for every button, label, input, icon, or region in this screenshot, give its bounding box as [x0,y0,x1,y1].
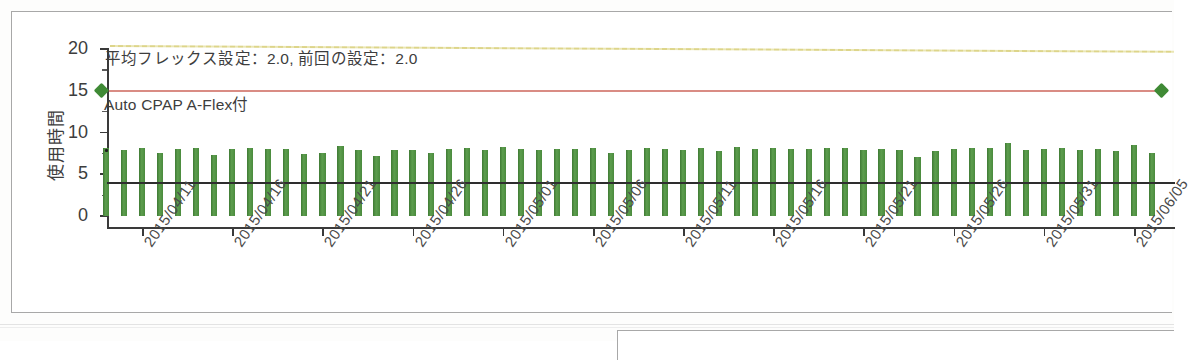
usage-bar [1131,145,1137,216]
y-tick-label: 20 [48,39,88,57]
y-tick-label: 15 [48,81,88,99]
device-mode-annotation: Auto CPAP A-Flex付 [104,92,249,114]
flex-setting-annotation: 平均フレックス設定：2.0, 前回の設定：2.0 [105,46,418,68]
usage-chart-panel: 使用時間 05101520 平均フレックス設定：2.0, 前回の設定：2.0 A… [11,11,1172,313]
usage-bar [1005,143,1011,216]
usage-bar [301,154,307,216]
usage-bar [319,153,325,216]
secondary-panel [617,330,1174,360]
usage-bar [428,153,434,216]
y-tick-label: 10 [48,123,88,141]
y-tick-label: 0 [48,206,88,224]
cpap-pressure-line [109,90,1167,92]
x-axis-line [107,227,1175,229]
scan-seam-line [0,324,1174,325]
scan-seam-line-2 [0,327,1174,328]
usage-bar [211,155,217,216]
y-tick-label: 5 [48,164,88,182]
y-axis-title: 使用時間 [42,85,67,205]
